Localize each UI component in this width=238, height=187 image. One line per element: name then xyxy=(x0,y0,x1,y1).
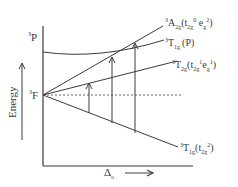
term-3F: 3F xyxy=(29,90,38,101)
label-sub: 1g xyxy=(174,44,180,50)
term-main: P xyxy=(31,31,37,43)
term-3P: 3P xyxy=(28,32,37,43)
term-main: F xyxy=(32,89,38,101)
label-3T1g-t2g2: 3T1g(t2g2) xyxy=(180,143,214,153)
delta-axis-label: Δo xyxy=(104,167,114,178)
label-config: ) xyxy=(210,142,213,153)
label-config-sub: 2g xyxy=(193,66,199,72)
energy-axis-label: Energy xyxy=(6,86,18,118)
label-config: (P) xyxy=(182,37,194,48)
label-config-sub: g xyxy=(203,24,206,30)
label-config: ) xyxy=(213,59,216,70)
line-3T1g-P xyxy=(43,40,164,54)
line-3T1g-t2g2 xyxy=(43,95,178,147)
label-3T2g: 3T2g(t2g1eg1) xyxy=(172,60,216,70)
label-config-sub: 2g xyxy=(201,149,207,155)
label-config-sub: 2g xyxy=(187,24,193,30)
line-3T2g xyxy=(43,61,177,95)
label-3A2g: 3A2g(t2g0 eg2) xyxy=(165,18,213,28)
label-3T1g-P: 3T1g(P) xyxy=(165,38,194,48)
delta-subscript: o xyxy=(111,174,114,180)
line-3A2g xyxy=(43,26,163,95)
label-config: ) xyxy=(209,17,212,28)
label-config-sub: g xyxy=(207,66,210,72)
